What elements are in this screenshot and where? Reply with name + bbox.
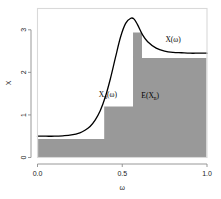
svg-text:Xn(ω): Xn(ω): [99, 90, 118, 100]
plot-canvas: 0.00.51.0 0123 ω X X(ω)Xn(ω)E(Xn): [0, 0, 221, 199]
x-tick-label: 0.5: [117, 170, 127, 177]
step-label: Xn(ω): [99, 90, 118, 100]
svg-text:E(Xn): E(Xn): [141, 91, 159, 101]
curve-label: X(ω): [165, 35, 181, 44]
y-tick-label: 1: [20, 113, 27, 117]
x-tick-label: 1.0: [202, 170, 212, 177]
svg-text:X(ω): X(ω): [165, 35, 181, 44]
figure-container: 0.00.51.0 0123 ω X X(ω)Xn(ω)E(Xn): [0, 0, 221, 199]
x-tick-label: 0.0: [33, 170, 43, 177]
x-axis-title: ω: [120, 184, 126, 191]
area-label: E(Xn): [141, 91, 159, 101]
y-axis-title: X: [5, 80, 12, 85]
y-tick-label: 2: [20, 70, 27, 74]
y-tick-label: 0: [20, 155, 27, 159]
y-tick-label: 3: [20, 28, 27, 32]
